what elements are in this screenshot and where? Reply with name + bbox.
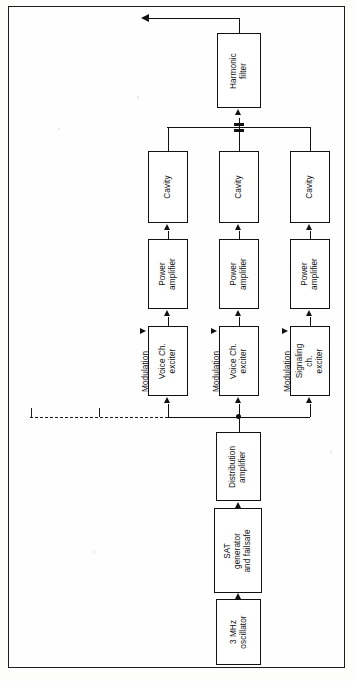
block-label: 3 MHz oscillator: [229, 615, 249, 648]
bus-leg-centre: [239, 127, 240, 151]
bus-junction-marker: [234, 123, 244, 126]
block-voice-exciter-1[interactable]: Voice Ch. exciter: [148, 326, 188, 396]
filter-input-arrow-icon: [235, 109, 241, 115]
exciter-pa-link-3: [310, 317, 311, 326]
modulation-input-arrow-icon: [282, 328, 288, 334]
block-voice-exciter-2[interactable]: Voice Ch. exciter: [219, 326, 259, 396]
pa-input-arrow-icon: [164, 310, 170, 316]
pa-input-arrow-icon: [235, 310, 241, 316]
block-label: SAT generator and failsafe: [223, 528, 253, 574]
block-harmonic-filter[interactable]: Harmonic filter: [217, 33, 261, 108]
cavity-input-arrow-icon: [306, 224, 312, 230]
block-power-amplifier-1[interactable]: Power amplifier: [148, 239, 188, 309]
cavity-input-arrow-icon: [164, 224, 170, 230]
caption-modulation-2: Modulation: [212, 351, 221, 392]
block-cavity-1[interactable]: Cavity: [148, 151, 188, 223]
bus-leg-left: [168, 127, 169, 151]
cavity-input-arrow-icon: [235, 224, 241, 230]
pa-cavity-link-2: [239, 231, 240, 239]
scan-speckle: [93, 551, 95, 553]
block-label: Signaling ch. exciter: [295, 342, 325, 380]
scan-speckle: [330, 450, 332, 453]
diagram-page: Harmonic filter Cavity Cavity Cavity Pow…: [0, 0, 354, 681]
output-line-vertical: [239, 18, 240, 34]
caption-modulation-3: Modulation: [283, 351, 292, 392]
dashed-line-tick-left: [31, 408, 32, 417]
block-cavity-3[interactable]: Cavity: [290, 151, 330, 223]
bus-leg-right: [310, 127, 311, 151]
pa-cavity-link-3: [310, 231, 311, 239]
pa-cavity-link-1: [168, 231, 169, 239]
exciter-input-arrow-icon: [235, 397, 241, 403]
output-line-horizontal: [148, 18, 239, 19]
block-label: Cavity: [234, 175, 244, 198]
block-label: Distribution amplifier: [229, 445, 249, 487]
block-signaling-exciter[interactable]: Signaling ch. exciter: [290, 326, 330, 396]
block-label: Harmonic filter: [229, 53, 249, 89]
block-label: Cavity: [163, 175, 173, 198]
block-power-amplifier-3[interactable]: Power amplifier: [290, 239, 330, 309]
modulation-input-arrow-icon: [140, 328, 146, 334]
exciter-pa-link-2: [239, 317, 240, 326]
modulation-input-arrow-icon: [211, 328, 217, 334]
block-label: Voice Ch. exciter: [229, 343, 249, 379]
block-label: Power amplifier: [300, 258, 320, 290]
dist-leg-right: [310, 404, 311, 417]
pa-input-arrow-icon: [306, 310, 312, 316]
scan-speckle: [58, 128, 60, 130]
exciter-pa-link-1: [168, 317, 169, 326]
caption-modulation-1: Modulation: [141, 351, 150, 392]
exciter-input-arrow-icon: [306, 397, 312, 403]
exciter-input-arrow-icon: [164, 397, 170, 403]
block-label: Voice Ch. exciter: [158, 343, 178, 379]
block-label: Cavity: [305, 175, 315, 198]
block-sat-generator[interactable]: SAT generator and failsafe: [214, 508, 262, 593]
block-oscillator[interactable]: 3 MHz oscillator: [216, 599, 261, 665]
block-power-amplifier-2[interactable]: Power amplifier: [219, 239, 259, 309]
dashed-line-tick-mid: [99, 408, 100, 417]
block-distribution-amplifier[interactable]: Distribution amplifier: [216, 432, 261, 501]
block-cavity-2[interactable]: Cavity: [219, 151, 259, 223]
scan-speckle: [137, 96, 139, 99]
dist-leg-left: [168, 404, 169, 417]
block-label: Power amplifier: [158, 258, 178, 290]
block-label: Power amplifier: [229, 258, 249, 290]
distamp-output-line: [239, 417, 240, 433]
